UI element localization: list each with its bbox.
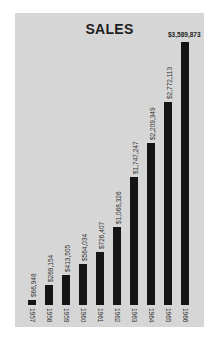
x-tick-label: 1958 (46, 308, 53, 322)
value-label: $1,747,247 (132, 141, 139, 174)
bar-1958 (45, 285, 53, 305)
bar-1960 (79, 264, 87, 305)
bar-1964 (147, 143, 155, 305)
x-tick-label: 1966 (182, 308, 189, 322)
bar-1962 (113, 227, 121, 305)
bar-1963 (130, 177, 138, 305)
x-tick-label: 1959 (63, 308, 70, 322)
x-tick-label: 1960 (80, 308, 87, 322)
bar-1966 (181, 42, 189, 305)
value-label: $413,505 (64, 245, 71, 272)
bar-1959 (62, 275, 70, 305)
value-label: $726,407 (98, 222, 105, 249)
value-label: $2,772,113 (166, 67, 173, 99)
x-tick-label: 1965 (165, 308, 172, 322)
bar-1965 (164, 102, 172, 305)
value-label: $1,068,326 (115, 191, 122, 224)
x-tick-label: 1962 (114, 308, 121, 322)
value-label: $66,948 (30, 274, 37, 298)
bar-1957 (28, 300, 36, 305)
chart-panel: SALES $66,9481957$269,1541958$413,505195… (15, 13, 204, 327)
value-label: $3,589,873 (168, 31, 201, 38)
x-tick-label: 1963 (131, 308, 138, 322)
bar-1961 (96, 252, 104, 305)
x-tick-label: 1961 (97, 308, 104, 322)
value-label: $564,034 (81, 234, 88, 261)
x-tick-label: 1964 (148, 308, 155, 322)
x-tick-label: 1957 (29, 308, 36, 322)
value-label: $269,154 (47, 255, 54, 282)
value-label: $2,209,349 (149, 107, 156, 140)
